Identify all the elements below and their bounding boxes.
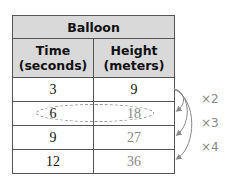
height-cell: 9 (94, 78, 175, 102)
multiplier-label: ×3 (201, 116, 219, 130)
time-cell: 12 (13, 150, 94, 174)
multiplier-arrows-icon (172, 86, 202, 176)
header-height-label: Height (110, 43, 157, 58)
column-header-height: Height (meters) (94, 39, 175, 78)
time-cell: 9 (13, 126, 94, 150)
multiplier-label: ×2 (201, 92, 219, 106)
multiplier-label: ×4 (201, 140, 219, 154)
header-time-unit: (seconds) (19, 58, 88, 73)
highlight-oval (36, 104, 154, 122)
table-row: 3 9 (13, 78, 175, 102)
time-cell: 3 (13, 78, 94, 102)
header-time-label: Time (36, 43, 70, 58)
table-title: Balloon (13, 16, 175, 39)
header-height-unit: (meters) (104, 58, 165, 73)
height-cell: 36 (94, 150, 175, 174)
height-cell: 27 (94, 126, 175, 150)
balloon-table: Balloon Time (seconds) Height (meters) 3… (12, 15, 175, 174)
table-row: 12 36 (13, 150, 175, 174)
column-header-time: Time (seconds) (13, 39, 94, 78)
table-title-row: Balloon (13, 16, 175, 39)
table-row: 9 27 (13, 126, 175, 150)
table-header-row: Time (seconds) Height (meters) (13, 39, 175, 78)
